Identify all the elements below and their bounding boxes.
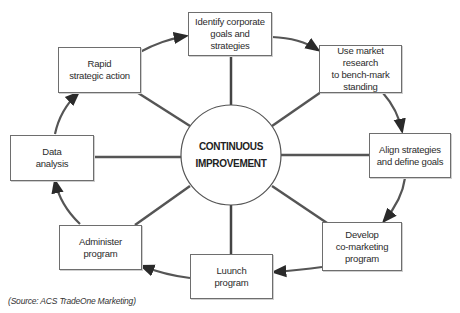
step-rapid-label: Rapid strategic action: [69, 58, 130, 82]
step-identify-label: Identify corporate goals and strategies: [192, 16, 268, 52]
arrow-data-to-rapid: [55, 93, 78, 134]
arrow-align-to-develop: [384, 178, 405, 221]
arrow-identify-to-research: [272, 37, 318, 50]
step-administer: Administer program: [59, 225, 142, 270]
step-data-label: Data analysis: [36, 146, 69, 170]
step-administer-label: Administer program: [79, 236, 122, 260]
center-label: CONTINUOUS IMPROVEMENT: [181, 105, 281, 205]
arrow-administer-to-data: [55, 181, 80, 224]
step-align-label: Align strategies and define goals: [377, 144, 444, 168]
arrow-research-to-align: [383, 93, 402, 131]
arrow-rapid-to-identify: [140, 36, 186, 52]
step-launch: Luunch program: [190, 254, 273, 299]
step-align: Align strategies and define goals: [369, 133, 451, 178]
step-rapid: Rapid strategic action: [58, 47, 141, 93]
step-identify: Identify corporate goals and strategies: [188, 12, 272, 56]
arrow-launch-to-administer: [142, 266, 190, 278]
step-launch-label: Luunch program: [215, 265, 249, 289]
step-research-label: Use market research to bench-mark standi…: [323, 45, 398, 93]
step-develop-label: Develop co-marketing program: [336, 229, 389, 265]
arrow-develop-to-launch: [274, 267, 322, 272]
step-research: Use market research to bench-mark standi…: [319, 45, 402, 93]
step-develop: Develop co-marketing program: [322, 222, 402, 271]
step-data: Data analysis: [10, 135, 94, 181]
source-caption: (Source: ACS TradeOne Marketing): [8, 296, 136, 306]
